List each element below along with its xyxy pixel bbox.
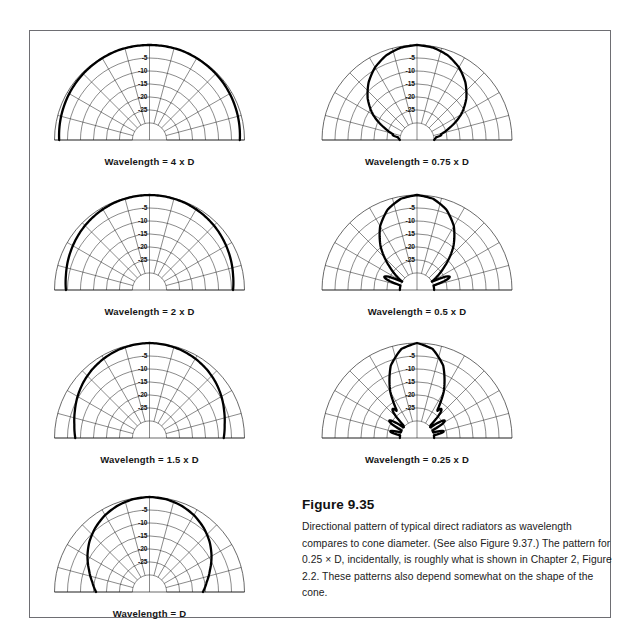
polar-grid: -5-10-15-20-25 — [302, 189, 532, 314]
polar-plot-d: -5-10-15-20-25Wavelength = D — [42, 491, 257, 616]
polar-grid: -5-10-15-20-25 — [42, 337, 257, 462]
ring-label: -20 — [138, 545, 148, 552]
ring-label: -20 — [405, 93, 415, 100]
ring-label: -15 — [138, 532, 148, 539]
ring-label: -5 — [142, 506, 148, 513]
ring-label: -15 — [405, 230, 415, 237]
figure-number: Figure 9.35 — [302, 497, 612, 512]
ring-label: -15 — [405, 80, 415, 87]
plot-label: Wavelength = D — [42, 608, 257, 619]
ring-label: -10 — [138, 365, 148, 372]
ring-label: -5 — [409, 204, 415, 211]
ring-label: -25 — [138, 558, 148, 565]
plot-label: Wavelength = 2 x D — [42, 306, 257, 317]
ring-label: -25 — [405, 256, 415, 263]
polar-plot-0-75d: -5-10-15-20-25Wavelength = 0.75 x D — [302, 39, 532, 164]
plot-label: Wavelength = 0.25 x D — [302, 454, 532, 465]
ring-label: -25 — [138, 106, 148, 113]
ring-label: -15 — [405, 378, 415, 385]
ring-label: -5 — [409, 54, 415, 61]
ring-label: -5 — [142, 352, 148, 359]
ring-label: -20 — [405, 391, 415, 398]
ring-label: -15 — [138, 80, 148, 87]
polar-plot-0-25d: -5-10-15-20-25Wavelength = 0.25 x D — [302, 337, 532, 462]
ring-label: -25 — [405, 404, 415, 411]
figure-page: -5-10-15-20-25Wavelength = 4 x D -5-10-1… — [0, 0, 638, 643]
polar-plot-4d: -5-10-15-20-25Wavelength = 4 x D — [42, 39, 257, 164]
polar-grid: -5-10-15-20-25 — [42, 39, 257, 164]
ring-label: -10 — [138, 67, 148, 74]
ring-label: -10 — [405, 365, 415, 372]
plot-label: Wavelength = 1.5 x D — [42, 454, 257, 465]
ring-label: -10 — [138, 217, 148, 224]
ring-label: -20 — [405, 243, 415, 250]
polar-plot-1-5d: -5-10-15-20-25Wavelength = 1.5 x D — [42, 337, 257, 462]
polar-grid: -5-10-15-20-25 — [42, 189, 257, 314]
polar-grid: -5-10-15-20-25 — [302, 39, 532, 164]
ring-label: -25 — [138, 256, 148, 263]
ring-label: -15 — [138, 230, 148, 237]
polar-plot-2d: -5-10-15-20-25Wavelength = 2 x D — [42, 189, 257, 314]
figure-caption-text: Directional pattern of typical direct ra… — [302, 519, 612, 602]
ring-label: -10 — [405, 67, 415, 74]
ring-label: -15 — [138, 378, 148, 385]
ring-label: -20 — [138, 93, 148, 100]
ring-label: -25 — [138, 404, 148, 411]
ring-label: -20 — [138, 391, 148, 398]
ring-label: -25 — [405, 106, 415, 113]
ring-label: -5 — [409, 352, 415, 359]
plot-label: Wavelength = 0.5 x D — [302, 306, 532, 317]
polar-plot-0-5d: -5-10-15-20-25Wavelength = 0.5 x D — [302, 189, 532, 314]
ring-label: -5 — [142, 54, 148, 61]
plot-label: Wavelength = 4 x D — [42, 156, 257, 167]
ring-label: -10 — [138, 519, 148, 526]
figure-frame: -5-10-15-20-25Wavelength = 4 x D -5-10-1… — [29, 30, 611, 618]
plot-label: Wavelength = 0.75 x D — [302, 156, 532, 167]
polar-grid: -5-10-15-20-25 — [302, 337, 532, 462]
ring-label: -5 — [142, 204, 148, 211]
ring-label: -10 — [405, 217, 415, 224]
ring-label: -20 — [138, 243, 148, 250]
figure-caption: Figure 9.35 Directional pattern of typic… — [302, 497, 612, 602]
polar-grid: -5-10-15-20-25 — [42, 491, 257, 616]
